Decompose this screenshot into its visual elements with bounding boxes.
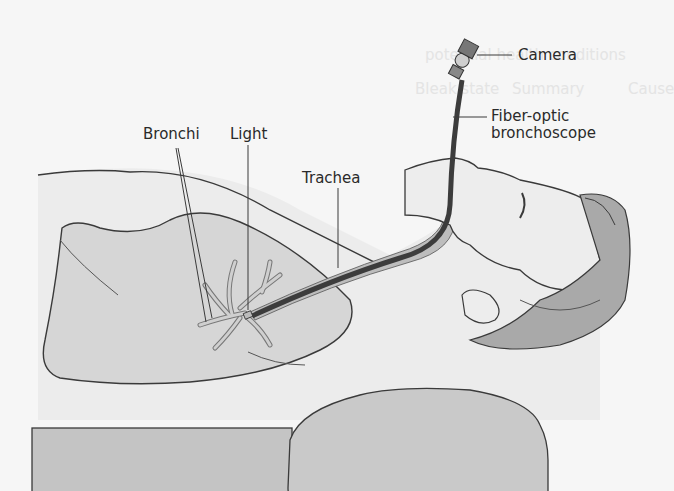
mattress bbox=[32, 428, 292, 491]
camera-icon bbox=[447, 39, 479, 80]
label-bronchi: Bronchi bbox=[143, 126, 200, 143]
label-fiber-optic-line2: bronchoscope bbox=[491, 125, 596, 142]
label-camera: Camera bbox=[518, 47, 577, 64]
label-fiber-optic-line1: Fiber-optic bbox=[491, 108, 569, 125]
label-light: Light bbox=[230, 126, 267, 143]
label-trachea: Trachea bbox=[302, 170, 361, 187]
